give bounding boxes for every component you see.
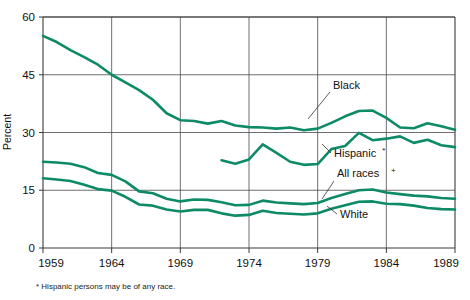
x-tick-label: 1979 <box>305 257 331 269</box>
annotation-white: White <box>340 208 368 220</box>
y-tick-label: 30 <box>22 127 35 139</box>
gridlines <box>43 17 455 248</box>
chart-canvas: 015304560 1959196419691974197919841989 P… <box>0 0 470 300</box>
x-tick-label: 1959 <box>38 257 64 269</box>
series-annotations: BlackHispanic*All races+White <box>308 79 396 220</box>
tick-marks <box>39 17 455 253</box>
annotation-black: Black <box>333 79 360 91</box>
annotation-superscript: * <box>382 146 385 155</box>
poverty-rate-line-chart: 015304560 1959196419691974197919841989 P… <box>0 0 470 300</box>
y-tick-label: 15 <box>22 184 35 196</box>
x-tick-label: 1969 <box>168 257 194 269</box>
y-tick-label: 60 <box>22 11 35 23</box>
footnote: * Hispanic persons may be of any race. <box>36 282 175 291</box>
y-tick-label: 45 <box>22 69 35 81</box>
x-tick-label: 1974 <box>236 257 262 269</box>
x-tick-label: 1964 <box>99 257 125 269</box>
y-tick-label: 0 <box>29 242 35 254</box>
y-axis-title: Percent <box>1 114 13 150</box>
x-tick-label: 1984 <box>374 257 400 269</box>
x-axis-tick-labels: 1959196419691974197919841989 <box>38 257 459 269</box>
annotation-hispanic: Hispanic <box>334 147 377 159</box>
annotation-all-races: All races <box>337 167 380 179</box>
x-tick-label: 1989 <box>433 257 459 269</box>
y-axis-tick-labels: 015304560 <box>22 11 35 254</box>
annotation-superscript: + <box>391 166 396 175</box>
